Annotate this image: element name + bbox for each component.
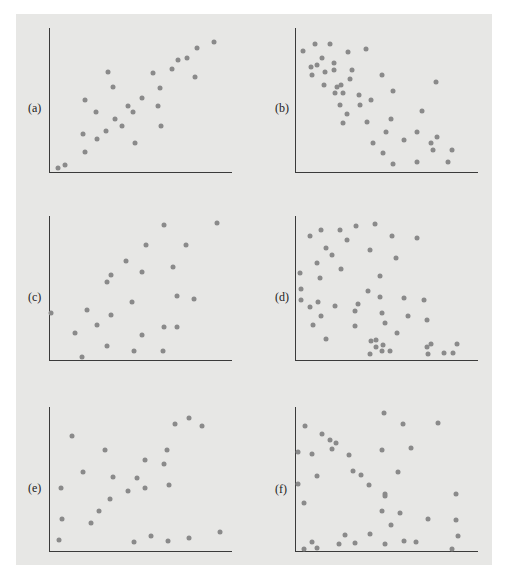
data-point [73, 331, 78, 336]
data-point [296, 482, 301, 487]
data-point [381, 151, 386, 156]
data-point [81, 132, 86, 137]
data-point [124, 259, 129, 264]
data-point [215, 221, 220, 226]
data-point [193, 75, 198, 80]
data-point [113, 117, 118, 122]
data-point [212, 40, 217, 45]
data-point [319, 228, 324, 233]
data-point [368, 248, 373, 253]
data-point [391, 162, 396, 167]
data-point [390, 234, 395, 239]
data-point [56, 166, 61, 171]
data-point [298, 271, 303, 276]
data-point [170, 67, 175, 72]
plot-label: (b) [275, 101, 289, 116]
data-point [296, 450, 301, 455]
data-point [431, 148, 436, 153]
data-point [310, 540, 315, 545]
scatter-plot-b [295, 28, 478, 173]
data-point [369, 98, 374, 103]
data-point [162, 223, 167, 228]
data-point [380, 311, 385, 316]
data-point [350, 68, 355, 73]
plot-label: (e) [28, 481, 41, 496]
data-point [330, 447, 335, 452]
data-point [398, 511, 403, 516]
data-point [310, 452, 315, 457]
data-point [175, 325, 180, 330]
data-point [132, 540, 137, 545]
data-point [309, 65, 314, 70]
plot-label: (d) [275, 290, 289, 305]
data-point [382, 411, 387, 416]
data-point [95, 323, 100, 328]
data-point [442, 351, 447, 356]
data-point [187, 536, 192, 541]
plot-label: (f) [275, 482, 287, 497]
data-point [319, 314, 324, 319]
data-point [105, 344, 110, 349]
data-point [345, 112, 350, 117]
data-point [302, 501, 307, 506]
plot-label: (c) [28, 290, 41, 305]
data-point [104, 129, 109, 134]
x-axis [295, 360, 478, 361]
data-point [126, 104, 131, 109]
data-point [83, 98, 88, 103]
data-point [57, 538, 62, 543]
data-point [415, 130, 420, 135]
data-point [185, 56, 190, 61]
data-point [389, 523, 394, 528]
data-point [143, 486, 148, 491]
data-point [131, 110, 136, 115]
data-point [388, 349, 393, 354]
data-point [173, 422, 178, 427]
data-point [333, 304, 338, 309]
data-point [162, 325, 167, 330]
data-point [368, 352, 373, 357]
data-point [94, 110, 99, 115]
y-axis [295, 28, 296, 173]
data-point [422, 298, 427, 303]
data-point [383, 321, 388, 326]
data-point [333, 91, 338, 96]
data-point [328, 42, 333, 47]
data-point [105, 280, 110, 285]
data-point [323, 70, 328, 75]
data-point [357, 93, 362, 98]
data-point [161, 349, 166, 354]
data-point [315, 63, 320, 68]
data-point [151, 71, 156, 76]
data-point [187, 416, 192, 421]
data-point [140, 270, 145, 275]
y-axis [49, 216, 50, 361]
data-point [384, 130, 389, 135]
data-point [456, 534, 461, 539]
data-point [135, 476, 140, 481]
data-point [106, 70, 111, 75]
data-point [95, 137, 100, 142]
data-point [97, 509, 102, 514]
x-axis [49, 360, 232, 361]
data-point [391, 89, 396, 94]
data-point [426, 517, 431, 522]
data-point [345, 238, 350, 243]
data-point [339, 267, 344, 272]
data-point [380, 448, 385, 453]
data-point [351, 469, 356, 474]
data-point [348, 77, 353, 82]
data-point [356, 302, 361, 307]
data-point [324, 337, 329, 342]
data-point [165, 448, 170, 453]
data-point [339, 83, 344, 88]
x-axis [49, 172, 232, 173]
plot-label: (a) [28, 101, 41, 116]
data-point [365, 120, 370, 125]
scatter-plot-f [295, 407, 478, 552]
data-point [406, 314, 411, 319]
data-point [368, 532, 373, 537]
data-point [310, 73, 315, 78]
data-point [83, 150, 88, 155]
data-point [109, 313, 114, 318]
